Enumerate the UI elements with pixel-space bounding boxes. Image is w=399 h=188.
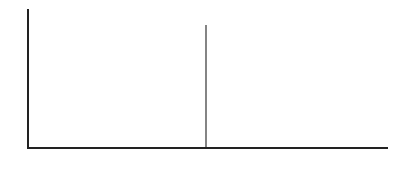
normal-curve-chart bbox=[0, 0, 399, 188]
